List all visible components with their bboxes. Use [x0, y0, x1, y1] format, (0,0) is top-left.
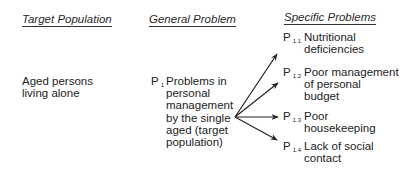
- arrow-to-p14: [235, 117, 277, 140]
- arrows-diagram: [0, 0, 418, 172]
- arrow-to-p12: [235, 83, 278, 117]
- arrow-to-p11: [235, 54, 277, 117]
